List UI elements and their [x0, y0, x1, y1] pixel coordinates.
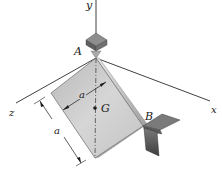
point-g-label: G: [101, 102, 110, 115]
b-support-bracket: B: [143, 110, 180, 156]
point-a-label: A: [73, 45, 82, 58]
g-point-icon: [93, 106, 97, 110]
height-dimension-label: a: [54, 125, 60, 136]
point-b-label: B: [144, 110, 153, 123]
z-axis-label: z: [8, 107, 15, 118]
mechanics-figure: y z x A G a: [0, 0, 222, 172]
y-axis: y: [85, 0, 96, 36]
x-axis-label: x: [211, 104, 217, 115]
y-axis-label: y: [85, 0, 93, 12]
top-support-block: [86, 33, 107, 57]
width-dimension-label: a: [79, 89, 85, 100]
